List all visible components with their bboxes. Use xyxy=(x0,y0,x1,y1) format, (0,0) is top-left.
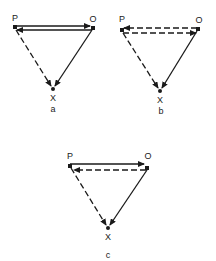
edge-p-to-x xyxy=(71,168,106,225)
edge-o-to-x xyxy=(55,30,92,86)
diagram-caption: c xyxy=(106,250,111,260)
edge-o-to-x xyxy=(110,170,147,225)
triad-diagrams: P O X a P O X b P O X c xyxy=(0,0,216,261)
node-label-o: O xyxy=(89,14,96,24)
node-label-x: X xyxy=(50,93,56,103)
node-x xyxy=(106,226,110,230)
node-label-o: O xyxy=(195,15,202,25)
node-label-o: O xyxy=(144,151,151,161)
edge-p-to-x xyxy=(123,33,158,88)
node-label-p: P xyxy=(67,151,73,161)
edge-p-to-x xyxy=(16,30,51,86)
diagram-b: P O X b xyxy=(119,14,203,116)
edge-o-to-x xyxy=(162,31,197,88)
diagram-c: P O X c xyxy=(67,151,152,260)
diagram-a: P O X a xyxy=(12,13,97,114)
node-x xyxy=(158,89,162,93)
diagram-caption: b xyxy=(158,106,163,116)
diagram-caption: a xyxy=(50,104,55,114)
node-p xyxy=(120,28,124,32)
node-label-p: P xyxy=(119,14,125,24)
node-label-x: X xyxy=(157,95,163,105)
node-label-x: X xyxy=(105,232,111,242)
node-x xyxy=(51,87,55,91)
node-label-p: P xyxy=(12,13,18,23)
